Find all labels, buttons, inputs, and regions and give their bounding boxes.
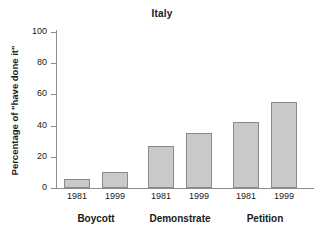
x-year-label-petition-1999: 1999: [267, 191, 301, 202]
x-group-label-petition: Petition: [215, 213, 315, 225]
x-year-label-demonstrate-1981: 1981: [144, 191, 178, 202]
bar-boycott-1999: [102, 172, 128, 188]
x-year-label-boycott-1999: 1999: [98, 191, 132, 202]
y-tick-label-40: 40: [21, 121, 47, 130]
y-axis-label: Percentage of "have done it": [9, 31, 20, 191]
y-tick-80: [51, 63, 56, 64]
x-year-label-petition-1981: 1981: [229, 191, 263, 202]
x-year-label-demonstrate-1999: 1999: [182, 191, 216, 202]
y-tick-label-20: 20: [21, 152, 47, 161]
y-tick-label-60: 60: [21, 89, 47, 98]
y-axis-line: [56, 30, 57, 188]
bar-boycott-1981: [64, 179, 90, 188]
y-tick-0: [51, 188, 56, 189]
chart-title: Italy: [0, 8, 324, 19]
y-tick-label-100: 100: [21, 27, 47, 36]
x-year-label-boycott-1981: 1981: [60, 191, 94, 202]
y-tick-20: [51, 157, 56, 158]
bar-petition-1981: [233, 122, 259, 188]
bar-petition-1999: [271, 102, 297, 188]
x-axis-line: [56, 188, 314, 189]
y-tick-label-0: 0: [21, 183, 47, 192]
y-tick-100: [51, 32, 56, 33]
y-tick-label-80: 80: [21, 58, 47, 67]
chart-figure: Italy Percentage of "have done it" 02040…: [0, 0, 324, 249]
bar-demonstrate-1981: [148, 146, 174, 188]
bar-demonstrate-1999: [186, 133, 212, 188]
y-tick-40: [51, 126, 56, 127]
y-tick-60: [51, 94, 56, 95]
